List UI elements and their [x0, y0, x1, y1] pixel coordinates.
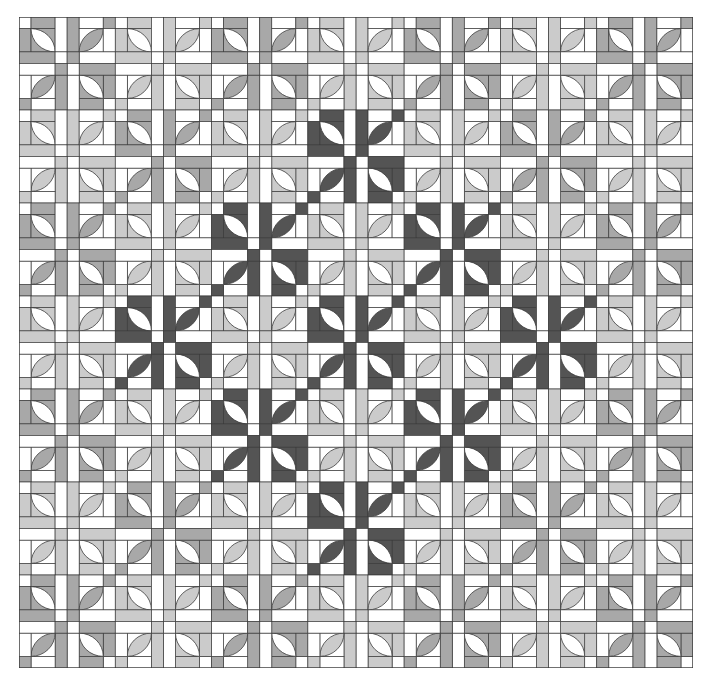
quilt-block-r1-c3 [308, 110, 404, 203]
block-top-half [115, 110, 211, 157]
quilt-block-r0-c2 [212, 17, 308, 110]
block-top-half [212, 296, 308, 343]
quilt-block-r4-c0 [19, 389, 115, 482]
quilt-block-r0-c5 [500, 17, 596, 110]
quilt-block-r3-c1 [115, 296, 211, 389]
block-top-half [212, 17, 308, 64]
block-top-half [597, 482, 693, 529]
quilt-block-r3-c0 [19, 296, 115, 389]
quilt-block-r5-c5 [500, 482, 596, 575]
quilt-block-r3-c4 [404, 296, 500, 389]
quilt-block-r2-c4 [404, 203, 500, 296]
block-bottom-half [308, 622, 404, 669]
block-top-half [597, 389, 693, 436]
quilt-block-r1-c5 [500, 110, 596, 203]
block-bottom-half [212, 343, 308, 390]
quilt-block-r2-c5 [500, 203, 596, 296]
quilt-block-r1-c4 [404, 110, 500, 203]
block-top-half [500, 203, 596, 250]
quilt-block-r6-c2 [212, 575, 308, 668]
block-bottom-half [115, 64, 211, 111]
block-top-half [19, 482, 115, 529]
quilt-block-r6-c1 [115, 575, 211, 668]
block-top-half [597, 296, 693, 343]
block-bottom-half [500, 436, 596, 483]
block-top-half [597, 17, 693, 64]
block-bottom-half [500, 343, 596, 390]
block-bottom-half [19, 529, 115, 576]
block-top-half [597, 575, 693, 622]
block-top-half [308, 575, 404, 622]
block-bottom-half [500, 622, 596, 669]
block-bottom-half [308, 343, 404, 390]
block-top-half [308, 203, 404, 250]
quilt-block-r6-c4 [404, 575, 500, 668]
block-bottom-half [404, 436, 500, 483]
block-bottom-half [19, 157, 115, 204]
block-bottom-half [500, 157, 596, 204]
quilt-block-r0-c4 [404, 17, 500, 110]
block-top-half [115, 17, 211, 64]
block-top-half [597, 203, 693, 250]
quilt-grid [19, 17, 693, 668]
quilt-block-r6-c6 [597, 575, 693, 668]
quilt-block-r5-c0 [19, 482, 115, 575]
block-top-half [500, 389, 596, 436]
quilt-block-r5-c4 [404, 482, 500, 575]
block-top-half [115, 575, 211, 622]
block-top-half [115, 296, 211, 343]
block-bottom-half [500, 529, 596, 576]
block-bottom-half [404, 64, 500, 111]
block-bottom-half [19, 622, 115, 669]
block-bottom-half [597, 250, 693, 297]
quilt-block-r6-c5 [500, 575, 596, 668]
quilt-block-r5-c6 [597, 482, 693, 575]
block-top-half [500, 296, 596, 343]
block-top-half [115, 203, 211, 250]
quilt-block-r1-c0 [19, 110, 115, 203]
block-bottom-half [19, 343, 115, 390]
quilt-block-r4-c6 [597, 389, 693, 482]
block-top-half [19, 110, 115, 157]
block-top-half [308, 389, 404, 436]
quilt-block-r5-c2 [212, 482, 308, 575]
quilt-block-r0-c3 [308, 17, 404, 110]
block-bottom-half [597, 529, 693, 576]
block-bottom-half [212, 250, 308, 297]
block-top-half [404, 482, 500, 529]
block-bottom-half [115, 622, 211, 669]
block-top-half [404, 203, 500, 250]
block-top-half [597, 110, 693, 157]
block-top-half [404, 110, 500, 157]
block-bottom-half [212, 436, 308, 483]
block-top-half [212, 575, 308, 622]
block-bottom-half [115, 250, 211, 297]
quilt-block-r3-c2 [212, 296, 308, 389]
block-top-half [19, 203, 115, 250]
quilt-block-r1-c2 [212, 110, 308, 203]
block-bottom-half [115, 529, 211, 576]
block-bottom-half [212, 157, 308, 204]
quilt-block-r3-c5 [500, 296, 596, 389]
block-top-half [212, 203, 308, 250]
block-bottom-half [115, 157, 211, 204]
block-top-half [115, 389, 211, 436]
block-bottom-half [404, 343, 500, 390]
quilt-block-r1-c6 [597, 110, 693, 203]
block-bottom-half [308, 64, 404, 111]
quilt-block-r4-c4 [404, 389, 500, 482]
block-top-half [404, 389, 500, 436]
quilt-block-r2-c6 [597, 203, 693, 296]
block-top-half [212, 482, 308, 529]
block-bottom-half [404, 529, 500, 576]
quilt-block-r4-c3 [308, 389, 404, 482]
block-bottom-half [212, 529, 308, 576]
quilt-block-r2-c0 [19, 203, 115, 296]
block-bottom-half [500, 64, 596, 111]
quilt-block-r5-c1 [115, 482, 211, 575]
block-top-half [500, 110, 596, 157]
block-top-half [115, 482, 211, 529]
quilt-block-r1-c1 [115, 110, 211, 203]
quilt-block-r0-c0 [19, 17, 115, 110]
block-top-half [19, 296, 115, 343]
